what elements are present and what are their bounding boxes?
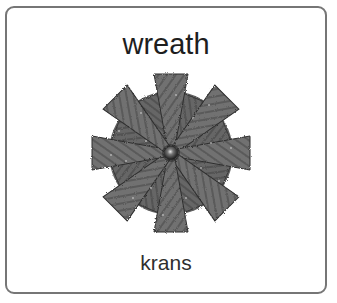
flashcard[interactable]: wreath (5, 6, 327, 294)
wreath-icon (86, 68, 256, 238)
word-translation: krans (7, 251, 325, 275)
word-english: wreath (7, 28, 325, 60)
wreath-center-ball (162, 144, 180, 162)
